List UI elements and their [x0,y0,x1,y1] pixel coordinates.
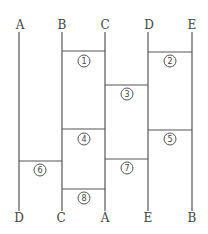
rung-label-2: 2 [164,55,177,68]
bottom-label-5: B [188,212,197,224]
bottom-label-4: E [144,212,153,224]
rung-label-5: 5 [164,133,177,146]
top-label-b: B [58,19,67,31]
ladder-diagram [0,0,208,234]
rung-label-6: 6 [34,164,47,177]
top-label-e: E [188,19,197,31]
bottom-label-2: C [56,212,65,224]
rung-label-8: 8 [78,192,91,205]
top-label-d: D [144,19,154,31]
top-label-a: A [16,19,25,31]
rung-label-4: 4 [78,133,91,146]
rung-label-7: 7 [121,162,134,175]
bottom-label-1: D [14,212,24,224]
rung-label-1: 1 [78,55,91,68]
top-label-c: C [100,19,109,31]
rung-label-3: 3 [121,88,134,101]
bottom-label-3: A [101,212,110,224]
